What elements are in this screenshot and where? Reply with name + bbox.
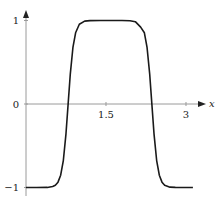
- x-tick-label: 3: [183, 109, 189, 120]
- y-tick-label: 0: [13, 99, 19, 110]
- x-ticks: 1.53: [98, 102, 189, 120]
- line-chart: 10−1 1.53 x: [0, 0, 216, 202]
- y-tick-label: −1: [4, 182, 19, 193]
- y-axis-arrow-icon: [23, 10, 29, 18]
- x-axis-arrow-icon: [198, 101, 206, 107]
- x-tick-label: 1.5: [98, 109, 114, 120]
- x-axis-label: x: [209, 98, 215, 109]
- y-tick-label: 1: [13, 15, 19, 26]
- y-ticks: 10−1: [4, 15, 28, 193]
